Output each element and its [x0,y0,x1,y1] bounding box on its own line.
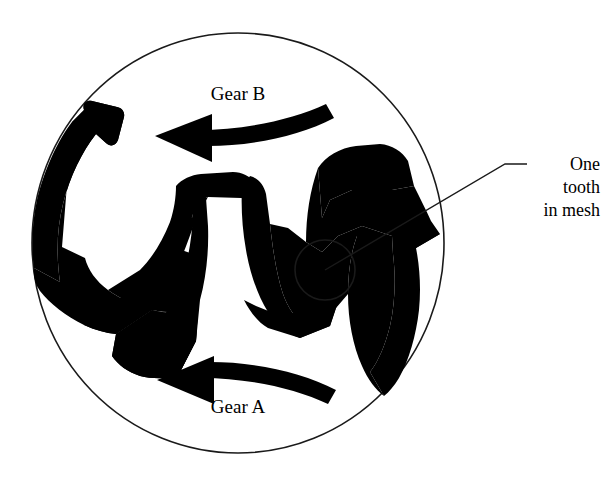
gear-mesh-diagram: Gear B Gear A One tooth in mesh [0,0,612,479]
annotation-line-tooth: tooth [563,177,600,197]
figure-root: Gear B Gear A One tooth in mesh [0,0,612,479]
gear-b-label: Gear B [211,83,265,104]
diagram-background [0,0,612,479]
annotation-line-one: One [570,154,600,174]
annotation-line-in-mesh: in mesh [544,200,601,220]
gear-a-label: Gear A [211,396,266,417]
